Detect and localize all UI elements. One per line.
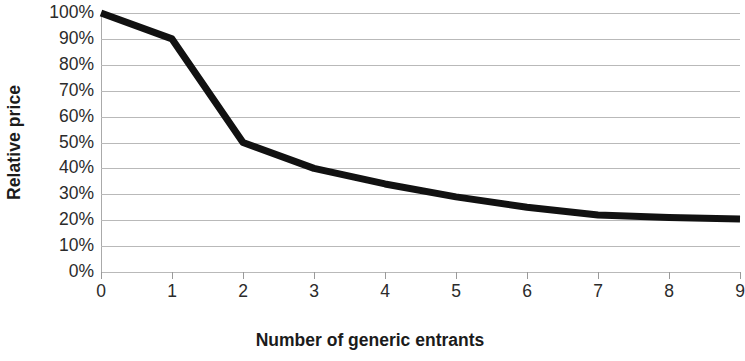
y-axis-tick-label: 40% bbox=[28, 160, 94, 178]
x-axis-tick-mark bbox=[172, 272, 173, 279]
y-axis-tick-label: 90% bbox=[28, 30, 94, 48]
y-axis-tick-label: 30% bbox=[28, 186, 94, 204]
y-axis-tick-label: 80% bbox=[28, 56, 94, 74]
x-axis-tick-label: 0 bbox=[96, 283, 106, 301]
x-axis-tick-label: 4 bbox=[380, 283, 390, 301]
y-axis-tick-label: 50% bbox=[28, 134, 94, 152]
x-axis-title: Number of generic entrants bbox=[0, 330, 740, 351]
x-axis-tick-label: 6 bbox=[522, 283, 532, 301]
x-axis-tick-label: 1 bbox=[167, 283, 177, 301]
x-axis-tick-mark bbox=[456, 272, 457, 279]
x-axis-tick-labels: 0123456789 bbox=[101, 283, 740, 311]
x-axis-tick-label: 9 bbox=[735, 283, 745, 301]
x-axis-tick-label: 5 bbox=[451, 283, 461, 301]
data-series-line bbox=[101, 13, 740, 272]
y-axis-tick-labels: 100%90%80%70%60%50%40%30%20%10%0% bbox=[28, 0, 94, 285]
x-axis-tick-label: 2 bbox=[238, 283, 248, 301]
x-axis-tick-marks bbox=[101, 272, 740, 280]
y-axis-tick-label: 10% bbox=[28, 237, 94, 255]
x-axis-tick-mark bbox=[740, 272, 741, 279]
x-axis-tick-mark bbox=[101, 272, 102, 279]
x-axis-tick-mark bbox=[314, 272, 315, 279]
y-axis-tick-label: 100% bbox=[28, 4, 94, 22]
y-axis-title-text: Relative price bbox=[5, 85, 26, 200]
x-axis-tick-label: 8 bbox=[664, 283, 674, 301]
x-axis-tick-mark bbox=[243, 272, 244, 279]
y-axis-tick-label: 0% bbox=[28, 263, 94, 281]
y-axis-tick-label: 70% bbox=[28, 82, 94, 100]
x-axis-tick-label: 3 bbox=[309, 283, 319, 301]
y-axis-tick-label: 20% bbox=[28, 211, 94, 229]
x-axis-tick-mark bbox=[527, 272, 528, 279]
y-axis-tick-label: 60% bbox=[28, 108, 94, 126]
x-axis-tick-mark bbox=[385, 272, 386, 279]
x-axis-tick-mark bbox=[669, 272, 670, 279]
y-axis-title: Relative price bbox=[0, 0, 30, 285]
x-axis-tick-mark bbox=[598, 272, 599, 279]
x-axis-tick-label: 7 bbox=[593, 283, 603, 301]
plot-area bbox=[101, 13, 740, 272]
